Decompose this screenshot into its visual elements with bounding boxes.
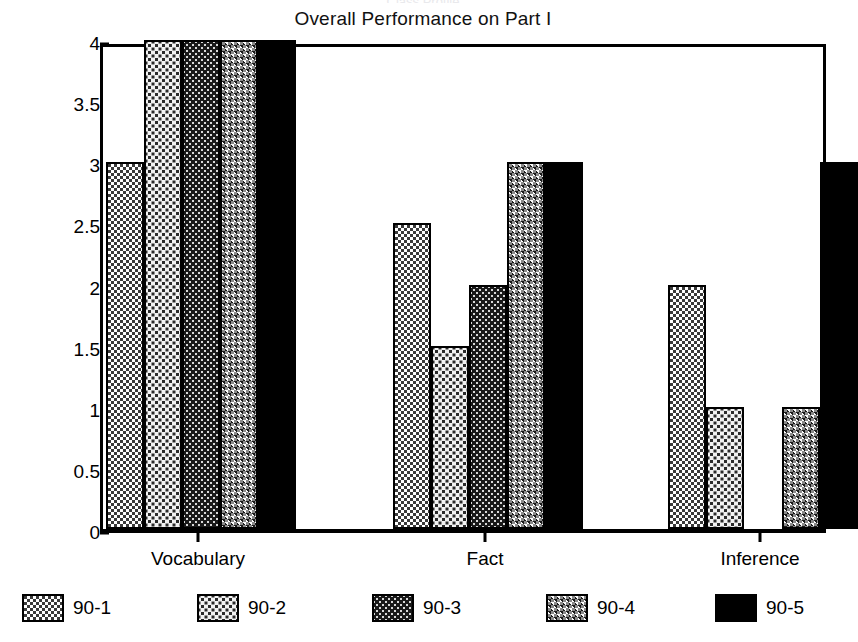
legend-item[interactable]: 90-5 bbox=[715, 592, 804, 624]
chart-title: Overall Performance on Part I bbox=[0, 8, 846, 30]
bar bbox=[220, 40, 258, 529]
y-axis-tick-labels: 00.511.522.533.54 bbox=[0, 44, 100, 533]
bars-container bbox=[103, 47, 823, 529]
legend-label: 90-4 bbox=[597, 597, 635, 619]
legend-item[interactable]: 90-1 bbox=[22, 592, 111, 624]
bar bbox=[106, 162, 144, 529]
legend-label: 90-5 bbox=[766, 597, 804, 619]
bar bbox=[706, 407, 744, 529]
bar bbox=[393, 223, 431, 529]
legend-label: 90-1 bbox=[73, 597, 111, 619]
legend-label: 90-2 bbox=[248, 597, 286, 619]
legend-swatch bbox=[546, 594, 588, 622]
x-axis-tick-mark bbox=[759, 533, 762, 542]
y-axis-tick-label: 0.5 bbox=[14, 461, 100, 483]
y-axis-tick-label: 1 bbox=[14, 400, 100, 422]
bar bbox=[258, 40, 296, 529]
legend-swatch bbox=[197, 594, 239, 622]
legend-item[interactable]: 90-3 bbox=[372, 592, 461, 624]
plot-area bbox=[100, 44, 826, 533]
x-axis-tick-labels: VocabularyFactInference bbox=[0, 548, 846, 574]
bar bbox=[820, 162, 858, 529]
legend: 90-190-290-390-490-5 bbox=[0, 592, 846, 628]
legend-swatch bbox=[372, 594, 414, 622]
legend-item[interactable]: 90-2 bbox=[197, 592, 286, 624]
x-axis-tick-marks bbox=[0, 533, 846, 545]
bar bbox=[668, 285, 706, 530]
legend-swatch bbox=[22, 594, 64, 622]
legend-item[interactable]: 90-4 bbox=[546, 592, 635, 624]
bar bbox=[182, 40, 220, 529]
x-axis-tick-label: Vocabulary bbox=[151, 548, 245, 570]
bar bbox=[144, 40, 182, 529]
bar bbox=[545, 162, 583, 529]
bar bbox=[431, 346, 469, 529]
x-axis-tick-mark bbox=[197, 533, 200, 542]
bar bbox=[507, 162, 545, 529]
x-axis-tick-label: Inference bbox=[720, 548, 799, 570]
chart-suptitle: Class Profile bbox=[0, 0, 846, 3]
y-axis-tick-label: 2.5 bbox=[14, 216, 100, 238]
y-axis-tick-label: 3 bbox=[14, 155, 100, 177]
x-axis-tick-label: Fact bbox=[467, 548, 504, 570]
y-axis-tick-label: 2 bbox=[14, 278, 100, 300]
x-axis-tick-mark bbox=[484, 533, 487, 542]
legend-swatch bbox=[715, 594, 757, 622]
y-axis-tick-label: 1.5 bbox=[14, 339, 100, 361]
y-axis-tick-label: 4 bbox=[14, 33, 100, 55]
y-axis-tick-label: 3.5 bbox=[14, 94, 100, 116]
legend-label: 90-3 bbox=[423, 597, 461, 619]
bar bbox=[469, 285, 507, 530]
bar bbox=[782, 407, 820, 529]
